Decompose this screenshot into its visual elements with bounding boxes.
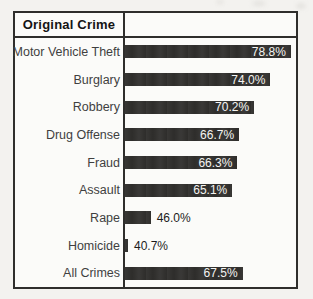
bar: 78.8% (125, 45, 291, 58)
bar: 67.5% (125, 267, 243, 280)
bar-cell: 67.5% (123, 259, 296, 287)
chart-frame: Original Crime Motor Vehicle Theft78.8%B… (13, 11, 298, 289)
chart-row: Drug Offense66.7% (15, 121, 296, 149)
bar-cell: 65.1% (123, 176, 296, 204)
bar (125, 239, 128, 252)
scan-artifact (252, 1, 266, 6)
value-label: 66.3% (198, 156, 237, 170)
bar: 74.0% (125, 73, 270, 86)
value-label: 65.1% (193, 183, 232, 197)
bar (125, 211, 151, 224)
category-label: Burglary (15, 66, 123, 94)
chart-row: Burglary74.0% (15, 66, 296, 94)
category-label: Homicide (15, 232, 123, 260)
bar-cell: 74.0% (123, 66, 296, 94)
scan-artifact (296, 3, 306, 9)
value-label: 40.7% (134, 239, 168, 253)
chart-header-spacer (125, 13, 296, 36)
bar-cell: 66.7% (123, 121, 296, 149)
bar-cell: 70.2% (123, 93, 296, 121)
chart-row: Homicide40.7% (15, 232, 296, 260)
category-label: Robbery (15, 93, 123, 121)
category-label: Assault (15, 176, 123, 204)
category-label: Drug Offense (15, 121, 123, 149)
value-label: 74.0% (231, 73, 270, 87)
category-label: Motor Vehicle Theft (15, 38, 123, 66)
chart-figure: Original Crime Motor Vehicle Theft78.8%B… (0, 0, 313, 299)
chart-row: All Crimes67.5% (15, 259, 296, 287)
chart-row: Robbery70.2% (15, 93, 296, 121)
bar: 66.3% (125, 156, 237, 169)
bar-cell: 40.7% (123, 232, 296, 260)
chart-row: Assault65.1% (15, 176, 296, 204)
chart-header-row: Original Crime (15, 13, 296, 38)
value-label: 70.2% (215, 100, 254, 114)
value-label: 67.5% (204, 266, 243, 280)
bar-cell: 66.3% (123, 149, 296, 177)
chart-row: Motor Vehicle Theft78.8% (15, 38, 296, 66)
bar-cell: 46.0% (123, 204, 296, 232)
bar: 66.7% (125, 128, 239, 141)
scan-artifact (216, 0, 224, 4)
value-label: 78.8% (252, 45, 291, 59)
bar: 70.2% (125, 101, 254, 114)
category-label: Fraud (15, 149, 123, 177)
bar: 65.1% (125, 184, 232, 197)
category-label: Rape (15, 204, 123, 232)
chart-row: Fraud66.3% (15, 149, 296, 177)
value-label: 46.0% (157, 211, 191, 225)
category-label: All Crimes (15, 259, 123, 287)
chart-row: Rape46.0% (15, 204, 296, 232)
chart-title: Original Crime (15, 13, 125, 36)
bar-cell: 78.8% (123, 38, 296, 66)
value-label: 66.7% (200, 128, 239, 142)
chart-rows: Motor Vehicle Theft78.8%Burglary74.0%Rob… (15, 38, 296, 287)
